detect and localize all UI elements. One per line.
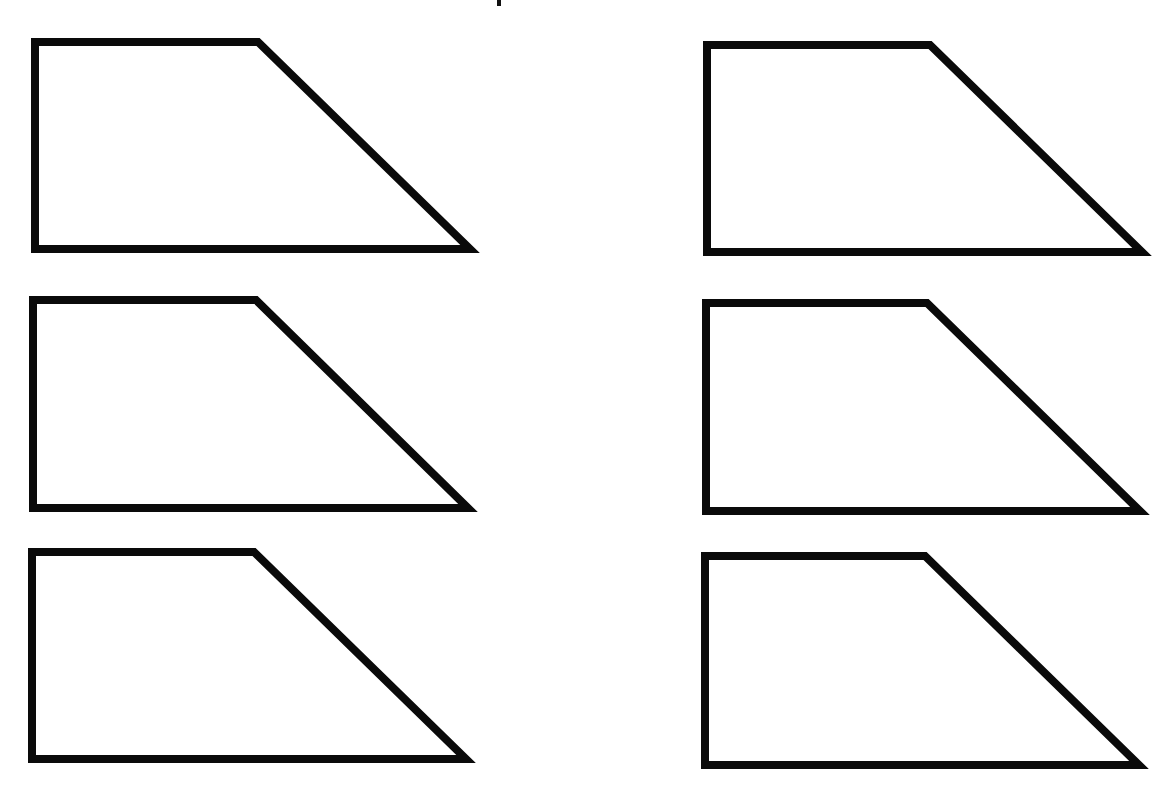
trapezoid-shape-1 [35,42,470,249]
trapezoid-shape-4 [706,303,1140,511]
trapezoid-shape-6 [705,556,1139,765]
cropped-title-mark [497,0,501,6]
trapezoid-shape-3 [33,300,468,508]
trapezoid-shape-5 [32,552,466,759]
trapezoid-shape-2 [707,45,1142,252]
trapezoid-grid [32,42,1142,765]
worksheet-canvas [0,0,1169,786]
